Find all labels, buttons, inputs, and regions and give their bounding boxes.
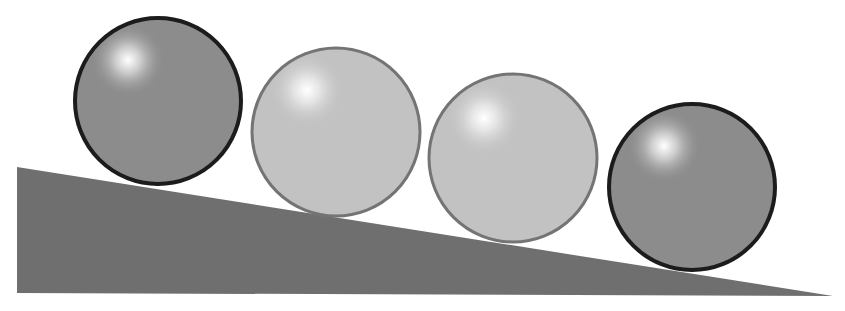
sphere-highlight — [77, 20, 239, 182]
sphere-highlight — [254, 50, 419, 215]
sphere-1 — [75, 18, 241, 184]
sphere-2 — [252, 48, 420, 216]
sphere-3 — [429, 74, 597, 242]
scene-canvas — [0, 0, 845, 311]
sphere-highlight — [431, 76, 596, 241]
sphere-4 — [609, 104, 775, 270]
inclined-plane-scene: Four spheres resting on an inclined plan… — [0, 0, 845, 311]
sphere-highlight — [611, 106, 773, 268]
